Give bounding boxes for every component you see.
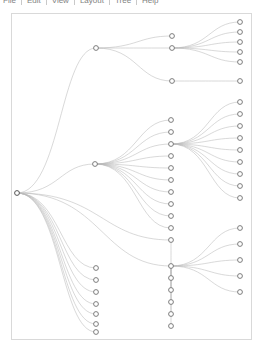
toolbar-divider (46, 0, 47, 5)
tree-edge (17, 193, 96, 332)
tree-edge (95, 164, 171, 192)
tree-edge (17, 48, 96, 193)
tree-edge (171, 144, 240, 198)
tree-internal-node[interactable] (94, 46, 99, 51)
tree-leaf-node[interactable] (238, 40, 243, 45)
toolbar-divider (74, 0, 75, 5)
tree-leaf-node[interactable] (238, 290, 243, 295)
tree-edge (95, 164, 171, 216)
tree-leaf-node[interactable] (169, 312, 174, 317)
tree-leaf-node[interactable] (238, 196, 243, 201)
tree-diagram (12, 14, 251, 339)
tree-leaf-node[interactable] (238, 124, 243, 129)
tree-leaf-node[interactable] (169, 118, 174, 123)
tree-leaf-node[interactable] (169, 288, 174, 293)
tree-leaf-node[interactable] (94, 266, 99, 271)
tree-edge (171, 102, 240, 144)
tree-leaf-node[interactable] (238, 60, 243, 65)
tree-leaf-node[interactable] (169, 226, 174, 231)
tree-edge (17, 193, 96, 324)
toolbar-item-file[interactable]: File (3, 0, 16, 5)
tree-leaf-node[interactable] (169, 324, 174, 329)
tree-leaf-node[interactable] (238, 30, 243, 35)
tree-edge (95, 164, 171, 204)
tree-leaf-node[interactable] (238, 148, 243, 153)
tree-leaf-node[interactable] (238, 136, 243, 141)
tree-edge (95, 144, 171, 164)
dendrogram-canvas[interactable] (11, 13, 252, 340)
tree-edge (17, 193, 171, 240)
tree-leaf-node[interactable] (169, 276, 174, 281)
toolbar-item-edit[interactable]: Edit (27, 0, 41, 5)
toolbar-item-tree[interactable]: Tree (115, 0, 131, 5)
edge-layer (17, 22, 240, 332)
tree-internal-node[interactable] (169, 264, 174, 269)
toolbar-divider (109, 0, 110, 5)
tree-internal-node[interactable] (170, 46, 175, 51)
tree-edge (171, 266, 240, 292)
tree-leaf-node[interactable] (238, 242, 243, 247)
tree-leaf-node[interactable] (94, 312, 99, 317)
tree-edge (95, 164, 171, 180)
tree-leaf-node[interactable] (169, 178, 174, 183)
toolbar-item-help[interactable]: Help (142, 0, 158, 5)
tree-leaf-node[interactable] (169, 202, 174, 207)
tree-edge (95, 164, 171, 228)
toolbar: File Edit View Layout Tree Help (0, 0, 263, 9)
tree-leaf-node[interactable] (238, 79, 243, 84)
tree-edge (171, 114, 240, 144)
tree-edge (95, 132, 171, 164)
tree-leaf-node[interactable] (238, 160, 243, 165)
tree-leaf-node[interactable] (238, 258, 243, 263)
tree-leaf-node[interactable] (238, 274, 243, 279)
tree-leaf-node[interactable] (169, 130, 174, 135)
tree-leaf-node[interactable] (94, 330, 99, 335)
tree-leaf-node[interactable] (170, 79, 175, 84)
tree-leaf-node[interactable] (94, 302, 99, 307)
tree-leaf-node[interactable] (238, 20, 243, 25)
tree-edge (171, 244, 240, 266)
tree-leaf-node[interactable] (169, 154, 174, 159)
tree-edge (96, 48, 172, 81)
tree-leaf-node[interactable] (94, 290, 99, 295)
tree-edge (171, 144, 240, 186)
toolbar-divider (136, 0, 137, 5)
tree-edge (172, 48, 240, 62)
tree-edge (172, 22, 240, 48)
tree-leaf-node[interactable] (94, 322, 99, 327)
tree-leaf-node[interactable] (94, 278, 99, 283)
tree-leaf-node[interactable] (238, 100, 243, 105)
tree-leaf-node[interactable] (169, 190, 174, 195)
toolbar-item-view[interactable]: View (52, 0, 69, 5)
tree-leaf-node[interactable] (169, 214, 174, 219)
tree-internal-node[interactable] (169, 142, 174, 147)
tree-leaf-node[interactable] (169, 300, 174, 305)
tree-edge (95, 120, 171, 164)
tree-leaf-node[interactable] (238, 172, 243, 177)
tree-leaf-node[interactable] (238, 112, 243, 117)
tree-root-node[interactable] (15, 191, 20, 196)
toolbar-item-layout[interactable]: Layout (80, 0, 104, 5)
tree-leaf-node[interactable] (169, 238, 174, 243)
tree-edge (17, 193, 96, 280)
tree-edge (171, 144, 240, 174)
toolbar-divider (21, 0, 22, 5)
tree-edge (171, 266, 240, 276)
tree-leaf-node[interactable] (169, 166, 174, 171)
toolbar-items: File Edit View Layout Tree Help (3, 0, 159, 7)
tree-internal-node[interactable] (93, 162, 98, 167)
tree-leaf-node[interactable] (238, 50, 243, 55)
tree-internal-node[interactable] (170, 34, 175, 39)
tree-leaf-node[interactable] (238, 226, 243, 231)
tree-edge (96, 36, 172, 48)
tree-leaf-node[interactable] (238, 184, 243, 189)
